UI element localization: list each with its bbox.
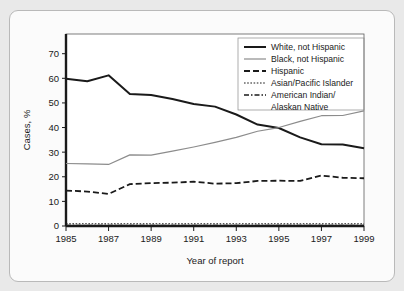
y-tick-label-0: 0 <box>54 220 59 231</box>
y-tick-label-40: 40 <box>48 122 59 133</box>
x-tick-label-1999: 1999 <box>353 233 374 244</box>
y-axis-title: Cases, % <box>21 109 32 150</box>
x-tick-label-1995: 1995 <box>268 233 289 244</box>
x-tick-label-1987: 1987 <box>98 233 119 244</box>
y-tick-label-30: 30 <box>48 147 59 158</box>
plot-area: 0102030405060701985198719891991199319951… <box>21 34 375 266</box>
y-tick-label-50: 50 <box>48 97 59 108</box>
x-tick-label-1997: 1997 <box>311 233 332 244</box>
legend-label-4-line2: Alaskan Native <box>271 102 329 112</box>
x-tick-label-1993: 1993 <box>226 233 247 244</box>
x-tick-label-1991: 1991 <box>183 233 204 244</box>
y-tick-label-10: 10 <box>48 196 59 207</box>
legend-label-4: American Indian/ <box>271 90 336 100</box>
y-tick-label-20: 20 <box>48 171 59 182</box>
legend-label-3: Asian/Pacific Islander <box>271 78 353 88</box>
legend-label-0: White, not Hispanic <box>271 42 346 52</box>
figure-root: 0102030405060701985198719891991199319951… <box>0 0 404 291</box>
legend-label-2: Hispanic <box>271 66 305 76</box>
y-tick-label-70: 70 <box>48 48 59 59</box>
x-tick-label-1985: 1985 <box>55 233 76 244</box>
x-axis-title: Year of report <box>186 255 244 266</box>
legend-label-1: Black, not Hispanic <box>271 54 345 64</box>
line-chart: 0102030405060701985198719891991199319951… <box>0 0 404 291</box>
x-tick-label-1989: 1989 <box>141 233 162 244</box>
y-tick-label-60: 60 <box>48 73 59 84</box>
